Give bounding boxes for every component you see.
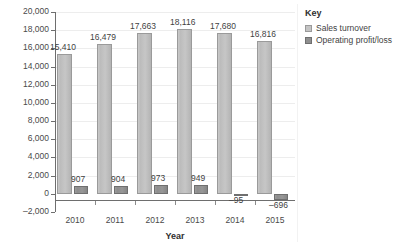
- y-axis-tick-labels: 20,00018,00016,00014,00012,00010,0008,00…: [3, 0, 49, 252]
- y-axis-tick-label: 8,000: [5, 116, 49, 125]
- y-axis-tick-label: 20,000: [5, 7, 49, 16]
- legend-divider: [297, 4, 298, 242]
- x-axis-category-label: 2010: [55, 215, 95, 225]
- x-axis-category-label: 2012: [135, 215, 175, 225]
- y-axis-tick-label: 18,000: [5, 25, 49, 34]
- y-axis-tick-label: 4,000: [5, 152, 49, 161]
- bar-operating-profit-loss[interactable]: [154, 185, 168, 194]
- bar-sales-turnover[interactable]: [137, 33, 152, 194]
- x-axis-tick: [175, 201, 176, 205]
- y-axis-tick-label: 10,000: [5, 98, 49, 107]
- y-axis-tick: [51, 212, 55, 213]
- gridline: [56, 12, 295, 13]
- data-label-operating-profit-loss: –95: [229, 196, 243, 205]
- y-axis-tick-label: 12,000: [5, 80, 49, 89]
- data-label-sales-turnover: 17,680: [210, 22, 236, 31]
- legend-swatch-profit-icon: [305, 37, 312, 44]
- x-axis-category-label: 2013: [175, 215, 215, 225]
- data-label-operating-profit-loss: 973: [151, 174, 165, 183]
- legend-item-operating-profit-loss[interactable]: Operating profit/loss: [305, 35, 399, 45]
- data-label-sales-turnover: 16,479: [90, 33, 116, 42]
- x-axis-tick: [135, 201, 136, 205]
- legend-label-sales-turnover: Sales turnover: [316, 23, 371, 33]
- bar-operating-profit-loss[interactable]: [194, 185, 208, 194]
- x-axis-category-label: 2015: [255, 215, 295, 225]
- bar-sales-turnover[interactable]: [177, 29, 192, 194]
- bar-sales-turnover[interactable]: [217, 33, 232, 194]
- bar-operating-profit-loss[interactable]: [74, 186, 88, 194]
- bar-chart: 20,00018,00016,00014,00012,00010,0008,00…: [0, 0, 403, 252]
- x-axis-tick: [255, 201, 256, 205]
- legend-swatch-sales-icon: [305, 25, 312, 32]
- data-label-operating-profit-loss: 904: [111, 175, 125, 184]
- data-label-sales-turnover: 16,816: [250, 30, 276, 39]
- bar-sales-turnover[interactable]: [57, 54, 72, 194]
- data-label-sales-turnover: 15,410: [50, 43, 76, 52]
- bar-operating-profit-loss[interactable]: [114, 186, 128, 194]
- bar-sales-turnover[interactable]: [97, 44, 112, 194]
- y-axis-tick-label: 2,000: [5, 171, 49, 180]
- legend-item-sales-turnover[interactable]: Sales turnover: [305, 23, 399, 33]
- y-axis-tick-label: 16,000: [5, 43, 49, 52]
- y-axis-tick-label: 6,000: [5, 134, 49, 143]
- data-label-sales-turnover: 17,663: [130, 22, 156, 31]
- x-axis-tick: [95, 201, 96, 205]
- data-label-operating-profit-loss: –696: [269, 201, 288, 210]
- x-axis-tick: [215, 201, 216, 205]
- legend: Key Sales turnover Operating profit/loss: [305, 8, 399, 47]
- plot-area: 20,00018,00016,00014,00012,00010,0008,00…: [0, 0, 296, 252]
- data-label-operating-profit-loss: 949: [191, 174, 205, 183]
- y-axis-tick-label: –2,000: [5, 207, 49, 216]
- bar-sales-turnover[interactable]: [257, 41, 272, 194]
- x-axis-category-label: 2011: [95, 215, 135, 225]
- y-axis-tick-label: 0: [5, 189, 49, 198]
- legend-title: Key: [305, 8, 399, 19]
- x-axis-title: Year: [55, 231, 295, 241]
- data-label-operating-profit-loss: 907: [71, 175, 85, 184]
- legend-label-operating-profit-loss: Operating profit/loss: [316, 35, 392, 45]
- x-axis-category-label: 2014: [215, 215, 255, 225]
- data-label-sales-turnover: 18,116: [170, 18, 195, 27]
- y-axis-tick-label: 14,000: [5, 62, 49, 71]
